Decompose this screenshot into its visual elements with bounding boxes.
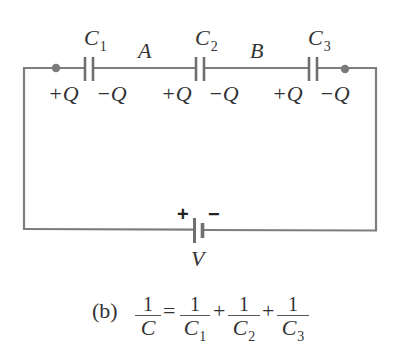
term-2-denominator: C2 bbox=[233, 316, 256, 343]
equals-sign: = bbox=[163, 300, 175, 322]
c3-positive-charge: +Q bbox=[272, 83, 303, 105]
wire-bottom-right bbox=[202, 230, 377, 231]
c3-label: C3 bbox=[308, 27, 331, 49]
equation-term-1: 1 C1 bbox=[180, 294, 210, 343]
lhs-numerator: 1 bbox=[143, 294, 153, 315]
equation-term-3: 1 C3 bbox=[277, 294, 309, 343]
c2-label: C2 bbox=[195, 27, 218, 49]
capacitor-c1 bbox=[85, 57, 93, 81]
wire-bottom-left bbox=[23, 229, 194, 230]
terminal-dot-left bbox=[52, 64, 60, 72]
term-3-denominator: C3 bbox=[282, 316, 305, 343]
c1-negative-charge: −Q bbox=[96, 83, 127, 105]
c3-negative-charge: −Q bbox=[319, 83, 350, 105]
lhs-denominator: C bbox=[141, 316, 156, 340]
c2-subscript: 2 bbox=[211, 39, 218, 54]
battery-voltage-label: V bbox=[191, 248, 204, 270]
c2-symbol: C bbox=[195, 25, 210, 50]
capacitor-c3 bbox=[309, 57, 317, 81]
battery-negative-sign: − bbox=[208, 204, 220, 224]
c1-label: C1 bbox=[84, 27, 107, 49]
c3-subscript: 3 bbox=[324, 39, 331, 54]
capacitor-c2 bbox=[196, 57, 204, 81]
c2-negative-charge: −Q bbox=[208, 83, 239, 105]
c1-symbol: C bbox=[84, 25, 99, 50]
equation-term-2: 1 C2 bbox=[228, 294, 260, 343]
terminal-dot-right bbox=[341, 65, 349, 73]
c3-symbol: C bbox=[308, 25, 323, 50]
plus-sign-1: + bbox=[213, 300, 225, 322]
equation-lhs-fraction: 1 C bbox=[135, 294, 161, 340]
term-2-numerator: 1 bbox=[239, 294, 249, 315]
panel-label: (b) bbox=[92, 300, 118, 322]
c1-positive-charge: +Q bbox=[48, 83, 79, 105]
c1-subscript: 1 bbox=[100, 39, 107, 54]
c2-positive-charge: +Q bbox=[161, 83, 192, 105]
node-b-label: B bbox=[250, 40, 263, 62]
term-3-numerator: 1 bbox=[288, 294, 298, 315]
term-1-denominator: C1 bbox=[184, 316, 207, 343]
node-a-label: A bbox=[138, 40, 151, 62]
battery-symbol bbox=[195, 218, 203, 243]
term-1-numerator: 1 bbox=[190, 294, 200, 315]
plus-sign-2: + bbox=[262, 300, 274, 322]
battery-positive-sign: + bbox=[177, 204, 189, 224]
